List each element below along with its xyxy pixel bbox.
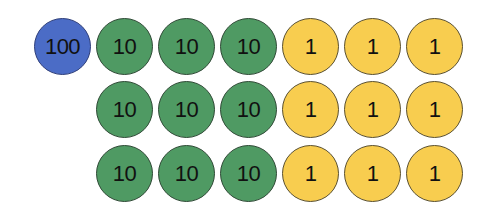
- ones-disc: 1: [344, 18, 401, 75]
- ones-disc: 1: [406, 18, 463, 75]
- tens-disc: 10: [158, 18, 215, 75]
- tens-disc: 10: [158, 81, 215, 138]
- tens-disc: 10: [220, 145, 277, 202]
- tens-disc: 10: [220, 18, 277, 75]
- tens-disc: 10: [96, 145, 153, 202]
- hundreds-disc: 100: [34, 18, 91, 75]
- tens-disc: 10: [220, 81, 277, 138]
- tens-disc: 10: [158, 145, 215, 202]
- ones-disc: 1: [344, 145, 401, 202]
- ones-disc: 1: [406, 145, 463, 202]
- tens-disc: 10: [96, 81, 153, 138]
- ones-disc: 1: [282, 18, 339, 75]
- ones-disc: 1: [344, 81, 401, 138]
- ones-disc: 1: [282, 145, 339, 202]
- tens-disc: 10: [96, 18, 153, 75]
- ones-disc: 1: [282, 81, 339, 138]
- ones-disc: 1: [406, 81, 463, 138]
